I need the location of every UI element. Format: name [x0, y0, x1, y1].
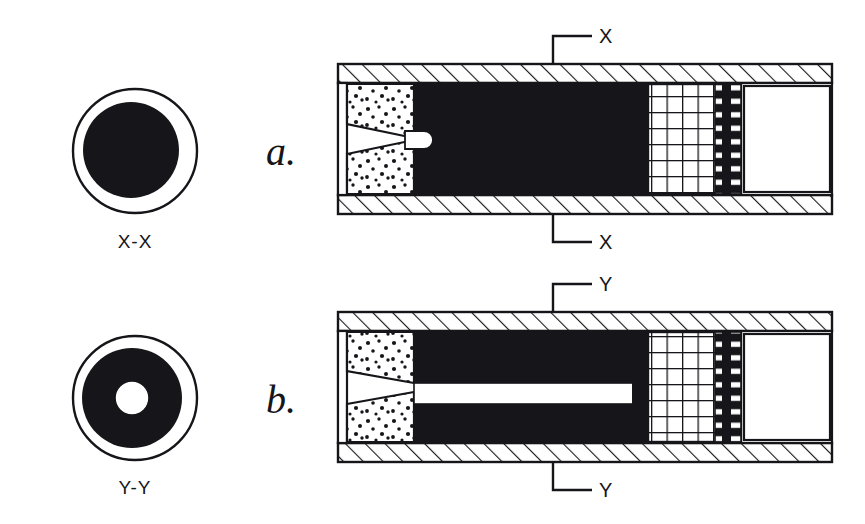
core-lower-b — [414, 404, 648, 442]
cross-section-label-y: Y-Y — [119, 477, 152, 498]
core-upper-b — [414, 332, 648, 383]
panel-label-b: b. — [266, 377, 296, 422]
empty-chamber-a — [744, 86, 830, 192]
base-end-plate-a — [338, 83, 347, 195]
tube-wall-top-b — [338, 312, 832, 331]
cross-section-core-disc — [83, 102, 179, 198]
section-marker-label-y-bottom: Y — [599, 479, 612, 501]
panel-label-a: a. — [266, 129, 296, 174]
empty-chamber-b — [744, 334, 830, 440]
cross-section-center-hole-b — [115, 381, 149, 415]
core-channel-cap-b — [632, 383, 648, 404]
diagram-canvas: X-X a. — [0, 0, 865, 524]
cross-section-label-x: X-X — [118, 231, 153, 252]
tube-wall-bottom-b — [338, 443, 832, 462]
section-marker-x-top: X — [553, 25, 612, 64]
perforated-disc-b — [715, 332, 741, 442]
section-marker-leader-x-bottom — [553, 214, 592, 242]
longitudinal-section-a — [338, 64, 832, 214]
tube-wall-top-a — [338, 64, 832, 83]
section-marker-leader-x-top — [553, 36, 592, 64]
cross-section-x-x — [73, 89, 197, 213]
technical-diagram: X-X a. — [0, 0, 865, 524]
axial-hollow-channel-b — [414, 383, 636, 404]
section-marker-label-x-bottom: X — [599, 231, 612, 253]
base-end-plate-b — [338, 331, 347, 443]
section-marker-y-top: Y — [553, 273, 612, 312]
section-marker-label-x-top: X — [599, 25, 612, 47]
perforated-disc-a — [715, 84, 741, 194]
igniter-tip-a — [405, 131, 433, 149]
section-marker-y-bottom: Y — [553, 462, 612, 501]
tube-wall-bottom-a — [338, 195, 832, 214]
longitudinal-section-b — [338, 312, 832, 462]
section-marker-leader-y-top — [553, 284, 592, 312]
section-marker-label-y-top: Y — [599, 273, 612, 295]
section-marker-leader-y-bottom — [553, 462, 592, 490]
core-solid-a — [414, 84, 648, 194]
cross-section-y-y — [73, 336, 197, 460]
section-marker-x-bottom: X — [553, 214, 612, 253]
